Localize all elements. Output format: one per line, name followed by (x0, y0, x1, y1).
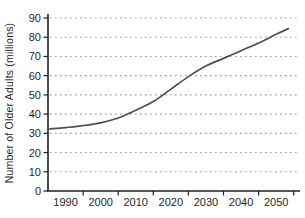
y-tick-label: 70 (29, 50, 41, 62)
line-chart-figure: 0102030405060708090 19902000201020202030… (0, 0, 305, 218)
y-tick-label: 60 (29, 70, 41, 82)
x-tick-label: 2010 (124, 196, 148, 208)
x-tick-label: 2040 (229, 196, 253, 208)
x-axis-ticks-and-labels: 1990200020102020203020402050 (53, 191, 293, 208)
y-axis-title: Number of Older Adults (millions) (3, 23, 15, 184)
y-tick-label: 90 (29, 12, 41, 24)
y-tick-label: 20 (29, 147, 41, 159)
x-tick-label: 2050 (264, 196, 288, 208)
y-tick-label: 30 (29, 127, 41, 139)
x-tick-label: 2000 (88, 196, 112, 208)
y-tick-label: 50 (29, 89, 41, 101)
y-tick-label: 10 (29, 166, 41, 178)
y-tick-label: 0 (35, 185, 41, 197)
x-tick-label: 2020 (159, 196, 183, 208)
y-axis-ticks-and-labels: 0102030405060708090 (29, 12, 48, 197)
x-tick-label: 2030 (194, 196, 218, 208)
y-tick-label: 40 (29, 108, 41, 120)
y-tick-label: 80 (29, 31, 41, 43)
chart-canvas: 0102030405060708090 19902000201020202030… (0, 0, 305, 218)
x-tick-label: 1990 (53, 196, 77, 208)
